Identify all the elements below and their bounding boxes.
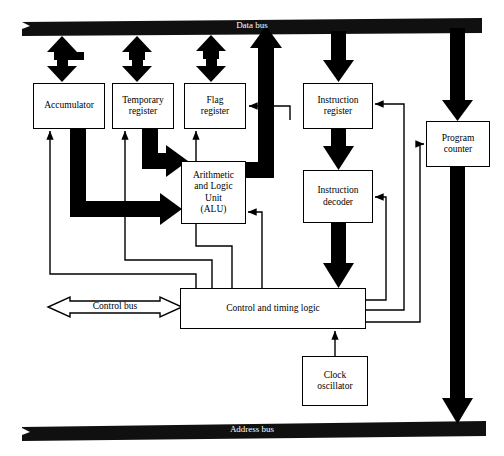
block-control-timing-logic[interactable]: Control and timing logic xyxy=(180,288,366,329)
data-bus-to-accumulator-arrow xyxy=(47,36,84,82)
address-bus-label: Address bus xyxy=(202,424,302,434)
accumulator-to-alu-arrow xyxy=(70,129,182,225)
instruction-register-to-decoder-arrow xyxy=(323,129,354,170)
data-bus-to-temporary-register-arrow xyxy=(122,36,152,82)
block-accumulator-label: Accumulator xyxy=(42,100,96,112)
program-counter-to-address-bus-arrow xyxy=(442,167,473,424)
block-instruction-register[interactable]: Instructionregister xyxy=(303,83,373,129)
data-bus-label-text: Data bus xyxy=(236,20,268,30)
alu-to-data-bus-arrow xyxy=(246,26,282,178)
block-alu-label: Arithmeticand LogicUnit(ALU) xyxy=(191,170,236,216)
data-bus-to-flag-register-arrow xyxy=(196,35,226,82)
control-to-program-counter-line xyxy=(366,144,424,322)
block-instruction-register-label: Instructionregister xyxy=(315,95,360,118)
address-bus-label-text: Address bus xyxy=(230,424,274,434)
block-control-timing-logic-label: Control and timing logic xyxy=(224,303,322,315)
block-temporary-register-label: Temporaryregister xyxy=(120,95,166,118)
data-bus-to-instruction-register-arrow xyxy=(323,31,354,82)
block-accumulator[interactable]: Accumulator xyxy=(33,83,105,129)
diagram-canvas xyxy=(0,0,504,456)
control-to-alu-line xyxy=(248,212,262,288)
block-program-counter-label: Programcounter xyxy=(440,133,477,156)
control-bus-label-text: Control bus xyxy=(93,301,138,311)
block-clock-oscillator-label: Clockoscillator xyxy=(315,370,354,393)
block-instruction-decoder[interactable]: Instructiondecoder xyxy=(303,170,373,223)
block-temporary-register[interactable]: Temporaryregister xyxy=(112,83,174,129)
block-alu[interactable]: Arithmeticand LogicUnit(ALU) xyxy=(181,161,246,224)
block-clock-oscillator[interactable]: Clockoscillator xyxy=(302,356,368,406)
data-bus-label: Data bus xyxy=(202,20,302,30)
data-bus-to-program-counter-arrow xyxy=(442,28,473,121)
instruction-decoder-to-control-arrow xyxy=(323,223,354,288)
block-flag-register[interactable]: Flagregister xyxy=(184,83,246,129)
control-bus-label: Control bus xyxy=(65,301,165,311)
block-program-counter[interactable]: Programcounter xyxy=(426,121,490,167)
block-instruction-decoder-label: Instructiondecoder xyxy=(315,185,360,208)
block-diagram: Accumulator Temporaryregister Flagregist… xyxy=(0,0,504,456)
block-flag-register-label: Flagregister xyxy=(199,95,232,118)
